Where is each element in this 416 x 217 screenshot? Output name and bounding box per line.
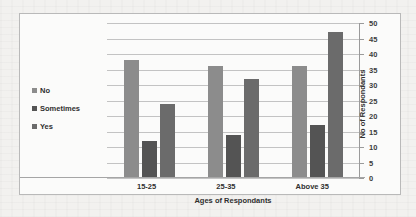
bar-yes-above-35[interactable] xyxy=(328,32,343,178)
bar-yes-15-25[interactable] xyxy=(160,104,175,178)
legend-item-sometimes[interactable]: Sometimes xyxy=(32,104,80,113)
legend-swatch-sometimes xyxy=(32,106,37,111)
legend-label-yes: Yes xyxy=(40,122,53,131)
y-tick-label-40: 40 xyxy=(369,50,377,59)
y-tick-label-5: 5 xyxy=(369,158,373,167)
bar-yes-25-35[interactable] xyxy=(244,79,259,178)
bar-group xyxy=(124,23,175,178)
bar-group xyxy=(208,23,259,178)
plot-area: 05101520253035404550 xyxy=(107,23,359,178)
bar-groups xyxy=(107,23,359,178)
x-axis-title: Ages of Respondants xyxy=(107,196,359,205)
y-tick-0 xyxy=(359,178,364,179)
legend-label-sometimes: Sometimes xyxy=(40,104,80,113)
x-axis-label: 25-35 xyxy=(216,182,235,191)
y-tick-label-0: 0 xyxy=(369,174,373,183)
y-tick-label-45: 45 xyxy=(369,34,377,43)
x-axis-labels: 15-2525-35Above 35 xyxy=(107,182,359,191)
x-axis-label: Above 35 xyxy=(296,182,329,191)
legend-swatch-no xyxy=(32,88,37,93)
gridline-0 xyxy=(107,178,359,179)
y-tick-label-30: 30 xyxy=(369,81,377,90)
y-tick-label-20: 20 xyxy=(369,112,377,121)
legend-swatch-yes xyxy=(32,124,37,129)
y-tick-label-50: 50 xyxy=(369,19,377,28)
y-tick-label-10: 10 xyxy=(369,143,377,152)
y-tick-label-15: 15 xyxy=(369,127,377,136)
legend-label-no: No xyxy=(40,86,50,95)
x-axis-label: 15-25 xyxy=(137,182,156,191)
y-axis-title: No of Respondants xyxy=(358,70,367,139)
legend-item-yes[interactable]: Yes xyxy=(32,122,80,131)
bar-group xyxy=(292,23,343,178)
bar-no-above-35[interactable] xyxy=(292,66,307,178)
bar-sometimes-15-25[interactable] xyxy=(142,141,157,178)
bar-sometimes-25-35[interactable] xyxy=(226,135,241,178)
bar-no-25-35[interactable] xyxy=(208,66,223,178)
x-axis-baseline xyxy=(20,177,365,178)
chart-container: No Sometimes Yes 05101520253035404550 15… xyxy=(19,13,401,195)
bar-sometimes-above-35[interactable] xyxy=(310,125,325,178)
chart-legend: No Sometimes Yes xyxy=(32,86,80,131)
legend-item-no[interactable]: No xyxy=(32,86,80,95)
bar-no-15-25[interactable] xyxy=(124,60,139,178)
y-tick-label-25: 25 xyxy=(369,96,377,105)
y-tick-label-35: 35 xyxy=(369,65,377,74)
